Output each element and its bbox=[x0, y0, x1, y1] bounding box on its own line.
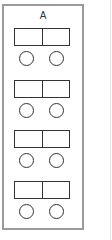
panel-label: A bbox=[4, 11, 82, 21]
circle-right-icon bbox=[49, 51, 64, 66]
panel-a: A bbox=[2, 4, 84, 230]
box-right bbox=[42, 131, 70, 147]
box-left bbox=[15, 29, 42, 45]
box-left bbox=[15, 131, 42, 147]
box-right bbox=[42, 182, 70, 198]
box-left bbox=[15, 81, 42, 97]
group-3 bbox=[4, 130, 82, 180]
box-pair bbox=[14, 181, 70, 199]
group-4 bbox=[4, 181, 82, 231]
circle-right-icon bbox=[49, 204, 64, 219]
box-left bbox=[15, 182, 42, 198]
circle-left-icon bbox=[19, 103, 34, 118]
box-pair bbox=[14, 80, 70, 98]
circle-left-icon bbox=[19, 153, 34, 168]
box-right bbox=[42, 81, 70, 97]
box-pair bbox=[14, 130, 70, 148]
circle-left-icon bbox=[19, 204, 34, 219]
group-2 bbox=[4, 80, 82, 130]
circle-right-icon bbox=[49, 153, 64, 168]
box-right bbox=[42, 29, 70, 45]
circle-left-icon bbox=[19, 51, 34, 66]
circle-right-icon bbox=[49, 103, 64, 118]
box-pair bbox=[14, 28, 70, 46]
adjacent-panel-edge bbox=[110, 0, 111, 240]
group-1 bbox=[4, 28, 82, 78]
